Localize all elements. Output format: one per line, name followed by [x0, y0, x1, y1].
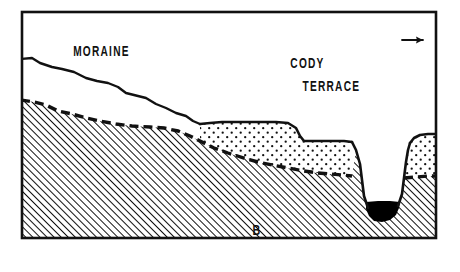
- label-terrace: TERRACE: [303, 78, 361, 94]
- label-cody: CODY: [290, 55, 324, 71]
- label-moraine: MORAINE: [73, 43, 130, 59]
- right-bedrock-contact-line: [404, 176, 437, 178]
- cross-section-svg: MORAINE CODY TERRACE NE B: [0, 0, 460, 272]
- label-section-id: B: [253, 223, 262, 239]
- figure-root: MORAINE CODY TERRACE NE B: [0, 0, 460, 272]
